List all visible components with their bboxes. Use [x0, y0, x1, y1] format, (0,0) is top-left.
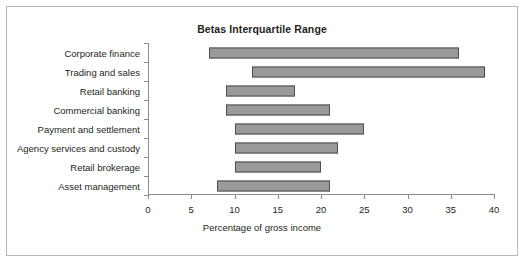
x-tick — [364, 195, 365, 199]
bar-row: Commercial banking — [148, 100, 494, 119]
x-tick-label: 5 — [189, 204, 194, 215]
bar-row: Retail banking — [148, 81, 494, 100]
category-label: Payment and settlement — [38, 123, 140, 134]
range-bar — [235, 142, 339, 153]
category-label: Trading and sales — [65, 66, 140, 77]
x-tick — [191, 195, 192, 199]
bar-row: Payment and settlement — [148, 119, 494, 138]
x-tick-label: 30 — [402, 204, 413, 215]
x-tick — [235, 195, 236, 199]
chart-title: Betas Interquartile Range — [7, 23, 517, 35]
x-tick-label: 40 — [489, 204, 500, 215]
range-bar — [217, 180, 329, 191]
range-bar — [226, 104, 330, 115]
category-label: Retail banking — [80, 85, 140, 96]
x-tick-label: 0 — [145, 204, 150, 215]
range-bar — [235, 123, 365, 134]
category-label: Asset management — [58, 180, 140, 191]
x-tick-label: 25 — [359, 204, 370, 215]
x-tick-label: 10 — [229, 204, 240, 215]
x-tick — [451, 195, 452, 199]
category-label: Agency services and custody — [17, 142, 140, 153]
y-tick — [144, 195, 148, 196]
x-tick-label: 15 — [272, 204, 283, 215]
bar-row: Corporate finance — [148, 43, 494, 62]
x-tick — [494, 195, 495, 199]
plot-area: 0510152025303540 Corporate financeTradin… — [148, 43, 494, 195]
category-label: Retail brokerage — [70, 161, 140, 172]
x-axis-title: Percentage of gross income — [7, 222, 517, 233]
range-bar — [226, 85, 295, 96]
range-bar — [252, 66, 486, 77]
x-tick — [408, 195, 409, 199]
chart-frame: Betas Interquartile Range 05101520253035… — [6, 6, 518, 256]
bar-row: Agency services and custody — [148, 138, 494, 157]
x-tick-label: 20 — [316, 204, 327, 215]
category-label: Corporate finance — [64, 47, 140, 58]
x-tick — [321, 195, 322, 199]
chart-figure: Betas Interquartile Range 05101520253035… — [0, 0, 525, 261]
bar-row: Asset management — [148, 176, 494, 195]
x-tick — [278, 195, 279, 199]
range-bar — [209, 47, 460, 58]
x-tick — [148, 195, 149, 199]
category-label: Commercial banking — [53, 104, 140, 115]
range-bar — [235, 161, 322, 172]
x-tick-label: 35 — [445, 204, 456, 215]
bar-row: Trading and sales — [148, 62, 494, 81]
bar-row: Retail brokerage — [148, 157, 494, 176]
